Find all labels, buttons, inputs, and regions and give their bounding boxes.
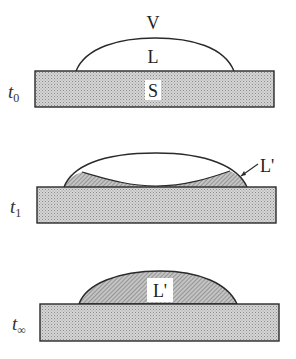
label-vapor: V [147, 13, 160, 33]
droplet-new-liquid-layer [64, 171, 247, 187]
time-label-t1: t1 [10, 196, 21, 220]
label-new-liquid: L' [260, 156, 274, 176]
time-label-t-infinity: t∞ [12, 313, 26, 337]
wetting-diagram: V L S t0 L' t1 L' t∞ [0, 0, 296, 359]
substrate-solid [40, 304, 279, 341]
time-label-t0: t0 [8, 81, 19, 105]
arrow-head-icon [241, 171, 246, 176]
label-new-liquid: L' [153, 281, 167, 301]
panel-t0: V L S t0 [8, 13, 274, 107]
substrate-solid [37, 187, 276, 223]
panel-t-infinity: L' t∞ [12, 271, 279, 341]
label-solid: S [148, 81, 158, 101]
panel-t1: L' t1 [10, 153, 276, 223]
label-liquid: L [148, 47, 159, 67]
